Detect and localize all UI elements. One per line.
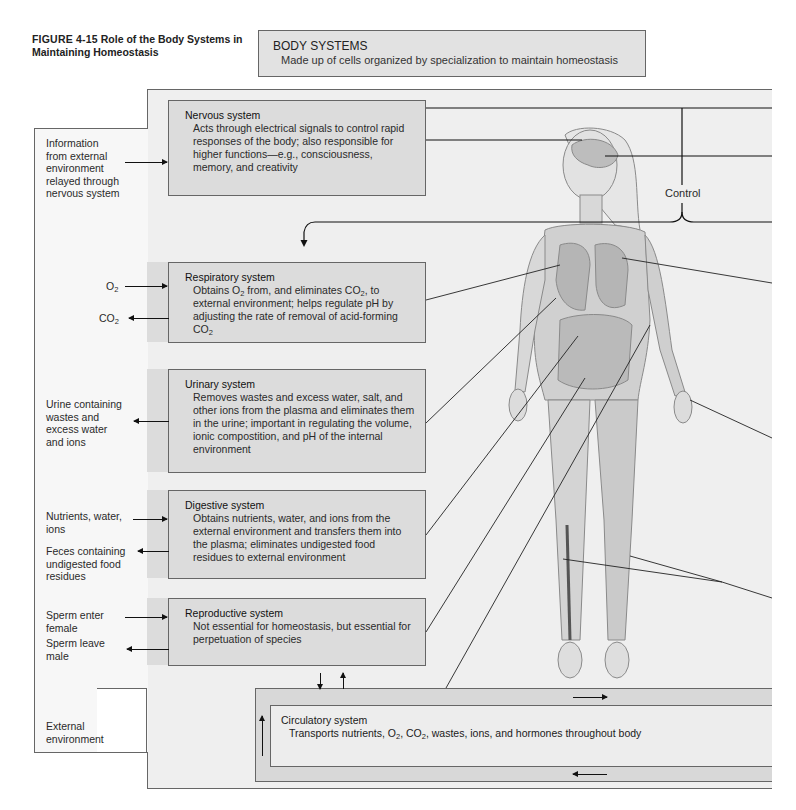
nervous-connectors — [304, 108, 772, 242]
human-body-illustration — [509, 128, 692, 678]
connector-lines-and-body-illustration — [0, 0, 796, 810]
control-arrow-head — [301, 240, 308, 247]
